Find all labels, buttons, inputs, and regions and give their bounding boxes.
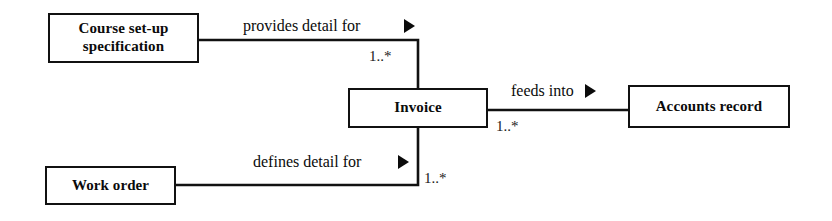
relationship-label-provides-detail-for: provides detail for xyxy=(243,18,360,34)
relationship-label-feeds-into: feeds into xyxy=(511,83,574,99)
entity-work-order[interactable]: Work order xyxy=(45,166,176,205)
multiplicity-defines-detail-for: 1..* xyxy=(424,171,447,186)
entity-invoice[interactable]: Invoice xyxy=(348,88,488,128)
entity-label-invoice: Invoice xyxy=(388,99,447,117)
arrow-head-provides-detail-for xyxy=(404,19,415,33)
multiplicity-provides-detail-for: 1..* xyxy=(369,49,392,64)
entity-label-work-order: Work order xyxy=(66,177,155,195)
entity-label-accounts-record: Accounts record xyxy=(650,98,769,116)
arrow-head-feeds-into xyxy=(585,84,596,98)
entity-accounts-record[interactable]: Accounts record xyxy=(628,85,790,128)
diagram-canvas: Course set-up specification Invoice Acco… xyxy=(0,0,832,221)
multiplicity-feeds-into: 1..* xyxy=(496,119,519,134)
entity-label-course-setup-specification: Course set-up specification xyxy=(72,20,174,55)
arrow-head-defines-detail-for xyxy=(398,155,409,169)
entity-course-setup-specification[interactable]: Course set-up specification xyxy=(48,13,199,63)
relationship-label-defines-detail-for: defines detail for xyxy=(253,154,361,170)
